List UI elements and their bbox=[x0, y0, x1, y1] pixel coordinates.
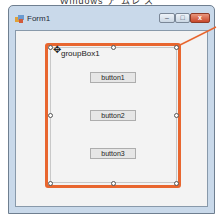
callout-line bbox=[0, 0, 222, 220]
